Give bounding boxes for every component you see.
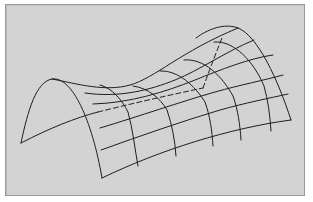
back-bottom-edge — [21, 112, 98, 143]
hidden-rising-edge — [203, 38, 222, 88]
front-bottom-edge — [102, 120, 291, 178]
wireframe-surface-diagram — [0, 0, 313, 202]
top-ridge-edge — [52, 28, 238, 88]
cross-arch — [133, 86, 176, 156]
long-line — [93, 55, 273, 104]
cross-arch — [100, 85, 138, 166]
